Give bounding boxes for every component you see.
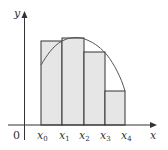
origin-label: 0 — [13, 129, 20, 142]
rectangles — [41, 38, 125, 125]
y-axis-arrow-icon — [22, 11, 28, 18]
x-axis-arrow-icon — [150, 122, 157, 128]
x-axis-label: x — [150, 129, 157, 142]
partition-label-x3: x3 — [100, 129, 111, 143]
partition-label-x2: x2 — [79, 129, 90, 143]
riemann-sum-diagram: y x 0 x0 x1 x2 x3 x4 — [0, 0, 168, 150]
partition-label-x0: x0 — [37, 129, 48, 143]
rectangle-2 — [62, 38, 84, 125]
rectangle-4 — [105, 91, 125, 125]
partition-label-x4: x4 — [121, 129, 132, 143]
rectangle-3 — [84, 52, 105, 125]
rectangle-1 — [41, 41, 62, 125]
partition-label-x1: x1 — [59, 129, 70, 143]
y-axis-label: y — [13, 7, 21, 20]
